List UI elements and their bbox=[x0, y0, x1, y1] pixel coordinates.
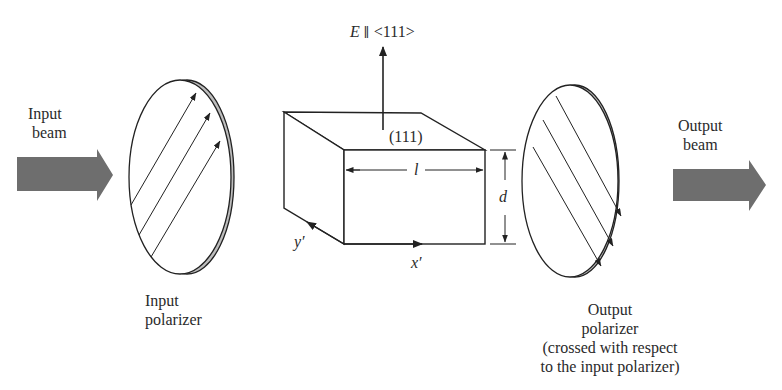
output-polarizer-note-line2: to the input polarizer) bbox=[510, 357, 710, 376]
input-beam-arrow bbox=[17, 149, 113, 201]
output-beam-arrow bbox=[673, 160, 766, 211]
input-beam-label: Input beam bbox=[28, 104, 67, 142]
crystal-face-label: (111) bbox=[389, 127, 422, 146]
input-polarizer bbox=[129, 80, 234, 274]
output-polarizer-label-line2: polarizer bbox=[510, 319, 710, 338]
length-label: l bbox=[412, 160, 420, 179]
output-beam-label-line1: Output bbox=[678, 116, 722, 135]
output-polarizer-note-line1: (crossed with respect bbox=[510, 338, 710, 357]
y-prime-label: y′ bbox=[294, 232, 305, 251]
modulator-diagram: Input beam Input polarizer E ∥ <111> (11… bbox=[0, 0, 782, 390]
e-field-label: E ∥ <111> bbox=[350, 22, 415, 42]
input-beam-label-line1: Input bbox=[28, 104, 67, 123]
input-polarizer-label: Input polarizer bbox=[145, 291, 202, 329]
output-beam-label-line2: beam bbox=[678, 135, 722, 154]
crystal-box bbox=[284, 112, 485, 244]
input-beam-label-line2: beam bbox=[28, 123, 67, 142]
output-polarizer-label: Output polarizer (crossed with respect t… bbox=[510, 300, 710, 376]
parallel-symbol: ∥ bbox=[364, 25, 370, 40]
output-polarizer bbox=[522, 85, 621, 277]
input-polarizer-label-line1: Input bbox=[145, 291, 202, 310]
crystal-direction: <111> bbox=[374, 23, 415, 40]
input-polarizer-label-line2: polarizer bbox=[145, 310, 202, 329]
thickness-label: d bbox=[499, 187, 507, 206]
e-field-symbol: E bbox=[350, 23, 360, 40]
x-prime-label: x′ bbox=[411, 253, 422, 272]
output-beam-label: Output beam bbox=[678, 116, 722, 154]
output-polarizer-label-line1: Output bbox=[510, 300, 710, 319]
